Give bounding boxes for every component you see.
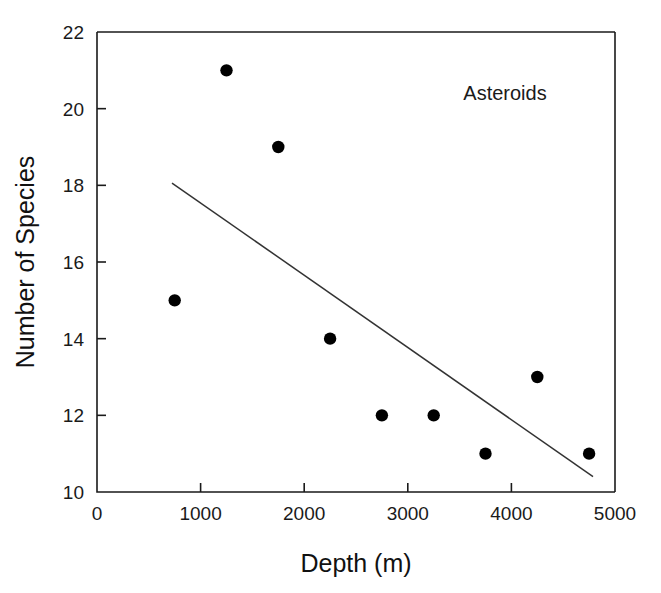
trendline <box>172 183 593 477</box>
y-axis-tick-label: 22 <box>63 22 84 43</box>
data-point <box>324 332 336 344</box>
data-point <box>272 141 284 153</box>
x-axis-tick-label: 2000 <box>283 503 325 524</box>
data-point <box>428 409 440 421</box>
data-point <box>583 447 595 459</box>
x-axis-tick-label: 1000 <box>179 503 221 524</box>
y-axis-tick-label: 20 <box>63 99 84 120</box>
data-point <box>220 64 232 76</box>
figure-container: 10121416182022 010002000300040005000 Ast… <box>0 0 661 593</box>
y-axis-tick-label: 18 <box>63 175 84 196</box>
y-axis-tick-label: 14 <box>63 329 85 350</box>
y-axis-tick-label: 10 <box>63 482 84 503</box>
data-point <box>169 294 181 306</box>
scatter-plot: 10121416182022 010002000300040005000 Ast… <box>0 0 661 593</box>
y-axis-tick-label: 16 <box>63 252 84 273</box>
regression-trendline <box>172 183 593 477</box>
x-axis-title: Depth (m) <box>300 549 411 577</box>
data-points <box>169 64 596 460</box>
data-point <box>376 409 388 421</box>
x-axis-tick-label: 5000 <box>594 503 636 524</box>
y-axis-title: Number of Species <box>11 156 39 369</box>
series-annotation-label: Asteroids <box>463 82 546 104</box>
data-point <box>531 371 543 383</box>
x-axis-tick-label: 4000 <box>490 503 532 524</box>
x-axis-tick-label: 0 <box>92 503 103 524</box>
x-axis-tick-label: 3000 <box>387 503 429 524</box>
x-axis-ticks <box>201 483 512 492</box>
y-axis-tick-labels: 10121416182022 <box>63 22 85 503</box>
data-point <box>479 447 491 459</box>
y-axis-tick-label: 12 <box>63 405 84 426</box>
y-axis-ticks <box>97 109 106 416</box>
x-axis-tick-labels: 010002000300040005000 <box>92 503 636 524</box>
